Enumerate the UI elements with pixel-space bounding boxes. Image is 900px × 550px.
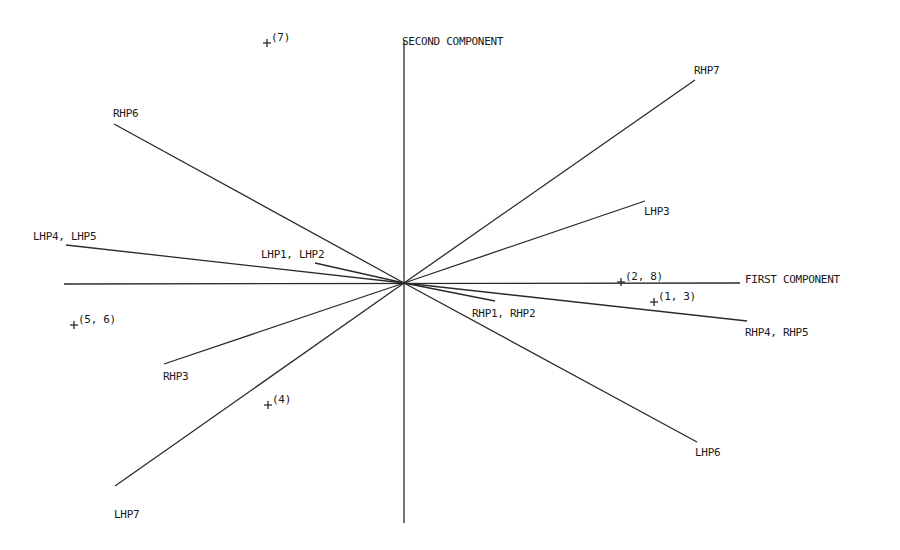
vector-label-rhp3: RHP3 — [163, 370, 188, 383]
vector-lhp6 — [404, 283, 697, 442]
point-label: (2, 8) — [625, 270, 663, 283]
axes: FIRST COMPONENTSECOND COMPONENT — [64, 35, 841, 523]
vector-lhp7 — [115, 283, 404, 486]
vector-label-rhp6: RHP6 — [113, 107, 138, 120]
vector-label-lhp7: LHP7 — [114, 508, 139, 521]
vector-lhp1-lhp2 — [315, 263, 404, 283]
vector-label-lhp6: LHP6 — [695, 446, 720, 459]
vector-rhp6 — [114, 124, 404, 283]
vector-label-lhp4-lhp5: LHP4, LHP5 — [33, 230, 96, 243]
observation-points: (7)(2, 8)(1, 3)(5, 6)(4) — [70, 31, 696, 409]
horizontal-axis-label: FIRST COMPONENT — [745, 273, 841, 286]
vector-label-rhp1-rhp2: RHP1, RHP2 — [472, 307, 535, 320]
point-1-3: (1, 3) — [650, 290, 696, 306]
vector-label-rhp7: RHP7 — [694, 64, 719, 77]
point-label: (5, 6) — [78, 313, 116, 326]
vector-label-lhp1-lhp2: LHP1, LHP2 — [261, 248, 324, 261]
vertical-axis-label: SECOND COMPONENT — [402, 35, 504, 48]
vector-label-rhp4-rhp5: RHP4, RHP5 — [745, 326, 808, 339]
vector-rhp3 — [164, 283, 404, 364]
point-label: (7) — [271, 31, 290, 44]
point-7: (7) — [263, 31, 290, 47]
vector-lhp4-lhp5 — [66, 245, 404, 283]
vector-rhp7 — [404, 80, 695, 283]
point-label: (1, 3) — [658, 290, 696, 303]
biplot-diagram: FIRST COMPONENTSECOND COMPONENT RHP6LHP4… — [0, 0, 900, 550]
point-label: (4) — [272, 393, 291, 406]
vector-lhp3 — [404, 201, 645, 283]
point-5-6: (5, 6) — [70, 313, 116, 329]
vector-label-lhp3: LHP3 — [644, 205, 669, 218]
point-4: (4) — [264, 393, 291, 409]
